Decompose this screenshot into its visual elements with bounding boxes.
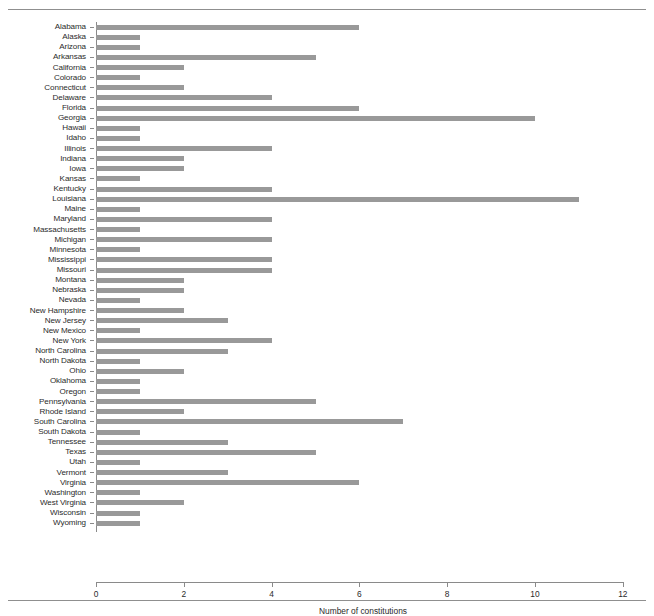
bar-category-label: Colorado <box>0 73 90 83</box>
bar-category-label: South Dakota <box>0 427 90 437</box>
bar-row: Colorado <box>0 73 654 83</box>
bar <box>96 247 140 252</box>
x-axis-tick-label: 4 <box>269 589 274 599</box>
bar-row: South Carolina <box>0 417 654 427</box>
x-axis-tick-mark <box>272 582 273 587</box>
bar-category-label: New Jersey <box>0 316 90 326</box>
bar-category-label: New Mexico <box>0 326 90 336</box>
bar-track <box>94 245 654 255</box>
bar-row: Oregon <box>0 387 654 397</box>
bar <box>96 25 359 30</box>
bar-category-label: New Hampshire <box>0 306 90 316</box>
bar-track <box>94 457 654 467</box>
bar <box>96 257 272 262</box>
bar-row: Iowa <box>0 164 654 174</box>
bar-row: Delaware <box>0 93 654 103</box>
bar-track <box>94 275 654 285</box>
bar <box>96 126 140 131</box>
bar-track <box>94 83 654 93</box>
bar <box>96 65 184 70</box>
bar-row: Alaska <box>0 32 654 42</box>
bar-track <box>94 306 654 316</box>
x-axis-tick-label: 2 <box>181 589 186 599</box>
bar-category-label: Illinois <box>0 144 90 154</box>
bar-row: Georgia <box>0 113 654 123</box>
bar-row: Nebraska <box>0 285 654 295</box>
bar-category-label: Arizona <box>0 42 90 52</box>
x-axis-tick-mark <box>96 582 97 587</box>
bar <box>96 156 184 161</box>
x-axis-title: Number of constitutions <box>0 606 654 616</box>
bar-category-label: Georgia <box>0 113 90 123</box>
bar <box>96 166 184 171</box>
bar-track <box>94 154 654 164</box>
bar-track <box>94 32 654 42</box>
bar-category-label: New York <box>0 336 90 346</box>
bar-category-label: Arkansas <box>0 52 90 62</box>
bar-track <box>94 417 654 427</box>
bar-category-label: Nebraska <box>0 285 90 295</box>
bar <box>96 85 184 90</box>
bar-track <box>94 113 654 123</box>
bar-track <box>94 376 654 386</box>
bar-category-label: Tennessee <box>0 437 90 447</box>
bar-row: Connecticut <box>0 83 654 93</box>
bar <box>96 318 228 323</box>
bar-row: Massachusetts <box>0 225 654 235</box>
bar-category-label: Florida <box>0 103 90 113</box>
bar-category-label: Maine <box>0 204 90 214</box>
bar <box>96 308 184 313</box>
bar-row: West Virginia <box>0 498 654 508</box>
bar-category-label: Indiana <box>0 154 90 164</box>
bar-track <box>94 295 654 305</box>
bar <box>96 288 184 293</box>
bar-row: Hawaii <box>0 123 654 133</box>
bar <box>96 35 140 40</box>
bar-track <box>94 194 654 204</box>
bar-category-label: Kansas <box>0 174 90 184</box>
bar <box>96 176 140 181</box>
bar-row: Ohio <box>0 366 654 376</box>
bar-category-label: Idaho <box>0 133 90 143</box>
top-horizontal-rule <box>8 9 646 10</box>
bar <box>96 490 140 495</box>
bar-category-label: Minnesota <box>0 245 90 255</box>
bar <box>96 440 228 445</box>
bar <box>96 187 272 192</box>
bar-track <box>94 346 654 356</box>
bar-track <box>94 225 654 235</box>
bar-row: Oklahoma <box>0 376 654 386</box>
bar <box>96 106 359 111</box>
bar-track <box>94 133 654 143</box>
bar-row: Tennessee <box>0 437 654 447</box>
bar <box>96 95 272 100</box>
bar <box>96 399 316 404</box>
bar-track <box>94 366 654 376</box>
bar-category-label: Mississippi <box>0 255 90 265</box>
bar-row: Texas <box>0 447 654 457</box>
bar <box>96 268 272 273</box>
bar-track <box>94 52 654 62</box>
bar-row: Kentucky <box>0 184 654 194</box>
bar-row: Idaho <box>0 133 654 143</box>
bar-row: Missouri <box>0 265 654 275</box>
bar-category-label: Hawaii <box>0 123 90 133</box>
bar-track <box>94 42 654 52</box>
x-axis-title-label: Number of constitutions <box>247 606 407 616</box>
bar-track <box>94 123 654 133</box>
x-axis-tick-mark <box>535 582 536 587</box>
bar-row: South Dakota <box>0 427 654 437</box>
bar-track <box>94 407 654 417</box>
bar-category-label: California <box>0 63 90 73</box>
bar-track <box>94 336 654 346</box>
bar-category-label: Virginia <box>0 478 90 488</box>
bar-track <box>94 478 654 488</box>
bar <box>96 419 403 424</box>
bar <box>96 328 140 333</box>
x-axis-tick-mark <box>447 582 448 587</box>
bar-category-label: Oregon <box>0 387 90 397</box>
x-axis-tick-mark <box>623 582 624 587</box>
bar-track <box>94 397 654 407</box>
bar-track <box>94 316 654 326</box>
